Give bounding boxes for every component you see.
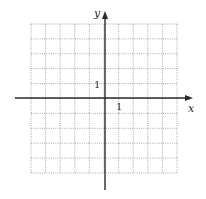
coordinate-plane: y x 1 1 <box>0 0 206 199</box>
x-axis-arrow-icon <box>185 95 193 101</box>
x-axis-label: x <box>188 102 195 115</box>
y-axis-arrow-icon <box>102 11 108 19</box>
y-axis-label: y <box>93 7 101 20</box>
y-unit-label: 1 <box>94 79 100 90</box>
x-unit-label: 1 <box>116 101 122 112</box>
